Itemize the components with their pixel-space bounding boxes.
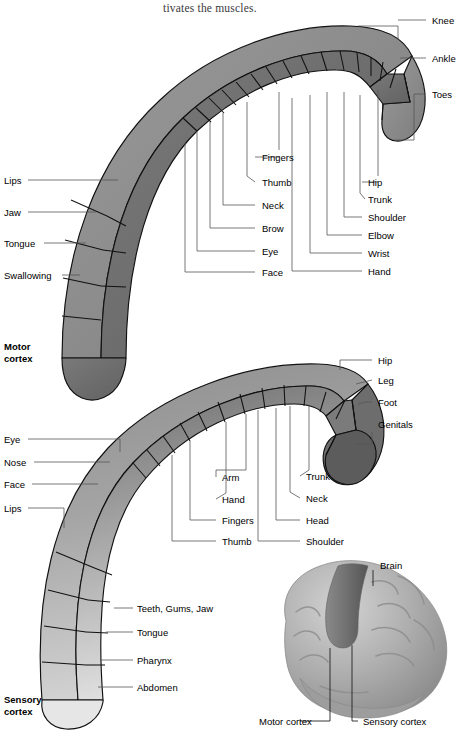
motor-label-tongue: Tongue xyxy=(4,238,35,249)
motor-label-wrist: Wrist xyxy=(368,248,389,259)
sensory-cortex-caption-line1: Sensory xyxy=(4,694,42,705)
motor-label-fingers: Fingers xyxy=(262,152,294,163)
motor-label-elbow: Elbow xyxy=(368,230,394,241)
sensory-label-shoulder: Shoulder xyxy=(306,536,344,547)
motor-label-knee: Knee xyxy=(432,15,454,26)
sensory-label-nose: Nose xyxy=(4,457,26,468)
motor-label-toes: Toes xyxy=(432,89,452,100)
motor-cortex-caption: Motor cortex xyxy=(4,341,33,364)
motor-label-brow: Brow xyxy=(262,223,284,234)
sensory-label-teeth-gums-jaw: Teeth, Gums, Jaw xyxy=(137,603,213,614)
motor-label-hand: Hand xyxy=(368,266,391,277)
motor-band-tail xyxy=(62,358,126,400)
brain-label-motor-cortex: Motor cortex xyxy=(259,716,312,727)
sensory-label-lips: Lips xyxy=(4,503,21,514)
motor-label-swallowing: Swallowing xyxy=(4,270,52,281)
sensory-label-leg: Leg xyxy=(378,375,394,386)
sensory-label-abdomen: Abdomen xyxy=(137,682,178,693)
homunculus-illustration xyxy=(0,0,464,733)
motor-label-thumb: Thumb xyxy=(262,177,292,188)
sensory-label-tongue: Tongue xyxy=(137,627,168,638)
sensory-label-head: Head xyxy=(306,515,329,526)
page-top-text: tivates the muscles. xyxy=(163,2,257,14)
brain-label-sensory-cortex: Sensory cortex xyxy=(363,716,426,727)
brain-label-brain: Brain xyxy=(380,560,402,571)
sensory-label-foot: Foot xyxy=(378,397,397,408)
motor-label-face: Face xyxy=(262,267,283,278)
sensory-label-fingers: Fingers xyxy=(222,515,254,526)
sensory-label-genitals: Genitals xyxy=(378,419,413,430)
sensory-label-hip: Hip xyxy=(378,355,392,366)
sensory-label-hand: Hand xyxy=(222,494,245,505)
figure-canvas: tivates the muscles. Lips Jaw Tongue Swa… xyxy=(0,0,464,733)
sensory-cortex-caption-line2: cortex xyxy=(4,706,33,717)
motor-label-shoulder: Shoulder xyxy=(368,212,406,223)
motor-label-lips: Lips xyxy=(4,175,21,186)
motor-label-trunk: Trunk xyxy=(368,194,392,205)
sensory-band-tail xyxy=(42,700,103,729)
motor-label-jaw: Jaw xyxy=(4,207,21,218)
motor-label-ankle: Ankle xyxy=(432,53,456,64)
sensory-label-trunk: Trunk xyxy=(306,471,330,482)
sensory-cortex-caption: Sensory cortex xyxy=(4,694,42,717)
sensory-label-neck: Neck xyxy=(306,493,328,504)
motor-cortex-caption-line1: Motor xyxy=(4,341,30,352)
motor-label-eye: Eye xyxy=(262,246,278,257)
sensory-label-arm: Arm xyxy=(222,472,239,483)
motor-label-hip: Hip xyxy=(368,177,382,188)
sensory-label-pharynx: Pharynx xyxy=(137,655,172,666)
sensory-label-eye: Eye xyxy=(4,434,20,445)
motor-label-neck: Neck xyxy=(262,200,284,211)
motor-cortex-caption-line2: cortex xyxy=(4,353,33,364)
sensory-label-face: Face xyxy=(4,479,25,490)
sensory-label-thumb: Thumb xyxy=(222,536,252,547)
brain-figure xyxy=(285,561,447,721)
